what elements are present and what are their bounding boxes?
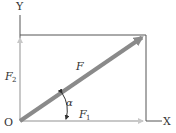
force-diagram: Y X O F F 2 F 1 α [0, 0, 176, 133]
origin-label: O [4, 116, 13, 129]
angle-alpha-label: α [66, 97, 73, 108]
y-axis-label: Y [15, 0, 24, 13]
resultant-f-label: F [75, 60, 84, 73]
f1-subscript: 1 [86, 114, 90, 122]
f2-subscript: 2 [12, 76, 16, 84]
x-axis-label: X [163, 115, 171, 128]
